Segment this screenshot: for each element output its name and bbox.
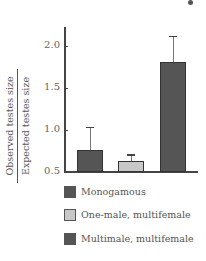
y-tick-label: 2.0 [30, 39, 60, 50]
bar-one-male-multifemale [118, 161, 144, 172]
error-bar-cap [127, 154, 135, 156]
legend-label: Monogamous [81, 186, 146, 197]
error-bar [90, 127, 91, 151]
error-bar-cap [169, 36, 177, 38]
legend-label: Multimale, multifemale [81, 233, 194, 244]
legend-swatch [64, 233, 76, 245]
y-tick [64, 88, 68, 89]
y-tick [64, 46, 68, 47]
legend-item: One-male, multifemale [64, 208, 191, 221]
legend-swatch [64, 186, 76, 198]
y-axis [64, 27, 66, 172]
bar-monogamous [77, 150, 103, 172]
error-bar-cap [86, 127, 94, 129]
y-tick-label: 0.5 [30, 165, 60, 176]
y-tick [64, 130, 68, 131]
corner-mark [188, 0, 193, 5]
legend-item: Multimale, multifemale [64, 232, 194, 245]
bar-multimale-multifemale [160, 62, 186, 172]
error-bar [173, 36, 174, 62]
y-axis-label-numerator: Observed testes size [3, 69, 18, 183]
legend-swatch [64, 209, 76, 221]
y-tick-label: 1.5 [30, 81, 60, 92]
legend-item: Monogamous [64, 185, 146, 198]
y-tick [64, 172, 68, 173]
legend-label: One-male, multifemale [81, 209, 191, 220]
y-tick-label: 1.0 [30, 123, 60, 134]
